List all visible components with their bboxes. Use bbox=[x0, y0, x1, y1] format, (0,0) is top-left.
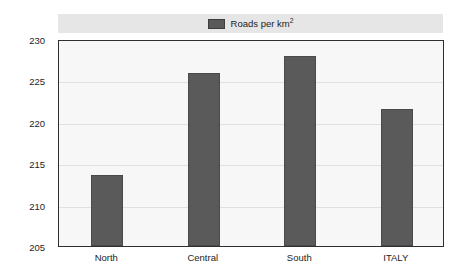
y-axis-tick-label: 215 bbox=[29, 159, 45, 170]
y-axis-tick-label: 220 bbox=[29, 117, 45, 128]
y-axis-tick-label: 225 bbox=[29, 76, 45, 87]
y-axis-tick-label: 210 bbox=[29, 200, 45, 211]
x-axis: NorthCentralSouthITALY bbox=[58, 249, 444, 269]
plot-area bbox=[58, 40, 444, 247]
y-axis-tick-label: 205 bbox=[29, 242, 45, 253]
legend-entry-roads-per-km2: Roads per km2 bbox=[208, 19, 294, 29]
x-axis-tick-label: ITALY bbox=[383, 252, 408, 263]
bars-layer bbox=[59, 41, 443, 246]
bar[interactable] bbox=[381, 109, 413, 246]
legend-swatch-icon bbox=[208, 19, 225, 29]
bar[interactable] bbox=[91, 175, 123, 246]
legend-label-text: Roads per km bbox=[231, 18, 290, 29]
bar-slot bbox=[349, 41, 446, 246]
bar[interactable] bbox=[284, 56, 316, 246]
bar-slot bbox=[252, 41, 349, 246]
bar[interactable] bbox=[188, 73, 220, 246]
bar-slot bbox=[59, 41, 156, 246]
legend-label-superscript: 2 bbox=[290, 17, 294, 24]
x-axis-tick-label: South bbox=[287, 252, 312, 263]
chart-legend: Roads per km2 bbox=[58, 14, 443, 33]
x-axis-tick-label: Central bbox=[187, 252, 218, 263]
plot-inner bbox=[59, 41, 443, 246]
bar-slot bbox=[156, 41, 253, 246]
y-axis: 205210215220225230 bbox=[0, 40, 52, 247]
y-axis-tick-label: 230 bbox=[29, 35, 45, 46]
x-axis-tick-label: North bbox=[95, 252, 118, 263]
chart-figure: Roads per km2 205210215220225230 NorthCe… bbox=[0, 0, 460, 279]
legend-label: Roads per km2 bbox=[231, 19, 294, 29]
